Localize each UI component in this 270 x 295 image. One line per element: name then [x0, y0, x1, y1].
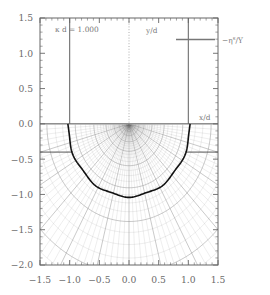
y-tick-label: −1.0: [11, 189, 33, 200]
figure-canvas: −1.5−1.0−0.50.00.51.01.51.51.00.50.0−0.5…: [0, 0, 270, 295]
legend-label-tail: /Y: [235, 36, 242, 45]
y-tick-label: −2.0: [11, 259, 33, 270]
x-tick-label: 1.5: [211, 274, 226, 285]
y-tick-label: 0.5: [18, 83, 33, 94]
legend-label-main: −η: [222, 36, 233, 45]
x-tick-label: −0.5: [88, 274, 110, 285]
y-axis-name-label: y/d: [145, 26, 158, 35]
x-tick-label: 0.0: [122, 274, 137, 285]
y-tick-label: −1.5: [11, 224, 33, 235]
y-tick-label: 1.5: [18, 12, 33, 23]
x-tick-label: 0.5: [151, 274, 166, 285]
plot-svg: −1.5−1.0−0.50.00.51.01.51.51.00.50.0−0.5…: [0, 0, 270, 295]
y-tick-label: −0.5: [11, 154, 33, 165]
plot-figure: −1.5−1.0−0.50.00.51.01.51.51.00.50.0−0.5…: [0, 0, 270, 295]
legend-label: −ηs/Y: [222, 35, 243, 45]
x-axis-name-label: x/d: [199, 113, 211, 122]
x-tick-label: 1.0: [181, 274, 196, 285]
x-tick-label: −1.0: [59, 274, 81, 285]
kappa-d-annotation: κ d = 1.000: [55, 25, 99, 34]
y-tick-label: 1.0: [18, 48, 33, 59]
x-tick-label: −1.5: [29, 274, 51, 285]
y-tick-label: 0.0: [18, 118, 33, 129]
